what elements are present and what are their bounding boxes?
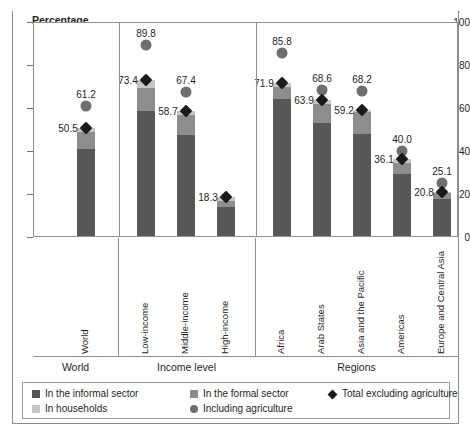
- data-label-excluding-agriculture: 20.8: [414, 186, 433, 197]
- marker-including-agriculture: [357, 85, 368, 96]
- bar-segment-informal: [177, 135, 195, 236]
- legend-item-households: In households: [32, 403, 107, 414]
- marker-including-agriculture: [141, 39, 152, 50]
- category-label-asia-and-the-pacific: Asia and the Pacific: [355, 271, 366, 354]
- category-label-europe-and-central-asia: Europe and Central Asia: [435, 251, 446, 354]
- data-label-including-agriculture: 40.0: [392, 133, 411, 144]
- legend-swatch-households-icon: [32, 405, 40, 413]
- category-label-low-income: Low-income: [139, 303, 150, 354]
- data-label-excluding-agriculture: 58.7: [158, 105, 177, 116]
- data-label-including-agriculture: 85.8: [272, 36, 291, 47]
- group-label-band: WorldIncome levelRegions: [33, 356, 458, 379]
- marker-including-agriculture: [181, 87, 192, 98]
- group-divider-band-0: [118, 238, 119, 356]
- legend-label-excluding-agriculture: Total excluding agriculture: [342, 388, 458, 399]
- bar-low-income[interactable]: [137, 80, 155, 236]
- group-divider-1: [256, 23, 257, 236]
- group-label-regions: Regions: [255, 361, 458, 373]
- bar-arab-states[interactable]: [313, 100, 331, 236]
- bar-asia-and-the-pacific[interactable]: [353, 110, 371, 236]
- legend-label-informal: In the informal sector: [45, 388, 138, 399]
- data-label-including-agriculture: 89.8: [136, 27, 155, 38]
- bar-segment-informal: [77, 149, 95, 236]
- category-label-middle-income: Middle-income: [179, 292, 190, 354]
- legend-item-formal: In the formal sector: [190, 388, 289, 399]
- category-label-africa: Africa: [275, 330, 286, 354]
- data-label-excluding-agriculture: 63.9: [294, 94, 313, 105]
- data-label-including-agriculture: 25.1: [432, 165, 451, 176]
- bar-segment-informal: [433, 199, 451, 236]
- group-divider-band-1: [255, 238, 256, 356]
- legend-label-formal: In the formal sector: [203, 388, 289, 399]
- bar-segment-formal: [77, 132, 95, 149]
- marker-including-agriculture: [81, 100, 92, 111]
- bar-segment-formal: [313, 104, 331, 123]
- bar-world[interactable]: [77, 128, 95, 236]
- legend-diamond-icon: [328, 390, 338, 400]
- bar-middle-income[interactable]: [177, 111, 195, 236]
- bar-segment-informal: [273, 99, 291, 236]
- group-label-world: World: [33, 361, 118, 373]
- bar-segment-informal: [353, 134, 371, 236]
- legend-item-excluding-agriculture: Total excluding agriculture: [328, 388, 458, 399]
- data-label-including-agriculture: 61.2: [76, 88, 95, 99]
- group-divider-0: [119, 23, 120, 236]
- data-label-including-agriculture: 68.2: [352, 73, 371, 84]
- data-label-excluding-agriculture: 36.1: [374, 154, 393, 165]
- category-label-band: WorldLow-incomeMiddle-incomeHigh-incomeA…: [33, 238, 458, 356]
- legend-label-households: In households: [45, 403, 107, 414]
- legend-item-including-agriculture: Including agriculture: [190, 403, 293, 414]
- bar-segment-formal: [137, 88, 155, 111]
- bar-americas[interactable]: [393, 159, 411, 236]
- bar-europe-and-central-asia[interactable]: [433, 192, 451, 236]
- bar-segment-informal: [217, 207, 235, 236]
- data-label-including-agriculture: 67.4: [176, 75, 195, 86]
- chart-legend: In the informal sector In the formal sec…: [22, 382, 450, 419]
- legend-swatch-formal-icon: [190, 390, 198, 398]
- legend-circle-icon: [190, 405, 198, 413]
- legend-label-including-agriculture: Including agriculture: [203, 403, 293, 414]
- data-label-excluding-agriculture: 71.9: [254, 77, 273, 88]
- data-label-excluding-agriculture: 18.3: [198, 192, 217, 203]
- bar-segment-informal: [393, 174, 411, 236]
- group-label-income-level: Income level: [118, 361, 255, 373]
- data-label-including-agriculture: 68.6: [312, 72, 331, 83]
- data-label-excluding-agriculture: 59.2: [334, 104, 353, 115]
- plot-area: 61.250.589.873.467.458.718.385.871.968.6…: [33, 22, 458, 237]
- bar-segment-informal: [137, 111, 155, 236]
- data-label-excluding-agriculture: 73.4: [118, 74, 137, 85]
- category-label-arab-states: Arab States: [315, 304, 326, 354]
- bar-africa[interactable]: [273, 83, 291, 236]
- category-label-americas: Americas: [395, 314, 406, 354]
- legend-item-informal: In the informal sector: [32, 388, 138, 399]
- category-label-world: World: [79, 329, 90, 354]
- marker-including-agriculture: [277, 48, 288, 59]
- bar-segment-formal: [177, 115, 195, 136]
- legend-swatch-informal-icon: [32, 390, 40, 398]
- category-label-high-income: High-income: [219, 301, 230, 354]
- chart-page: Percentage 100 80 60 40 20 0 61.250.589.…: [0, 0, 470, 441]
- bar-segment-informal: [313, 123, 331, 236]
- data-label-excluding-agriculture: 50.5: [58, 123, 77, 134]
